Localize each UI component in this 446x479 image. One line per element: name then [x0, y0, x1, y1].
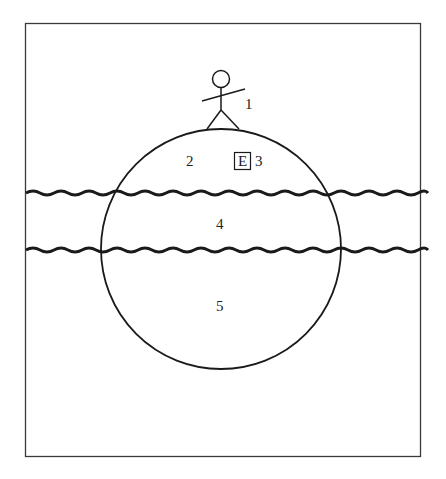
- frame-border: [26, 24, 421, 457]
- label-region-2: 2: [186, 153, 194, 169]
- wavy-line-bottom: [26, 248, 428, 252]
- wavy-line-top: [26, 191, 428, 195]
- stick-figure-icon: [202, 71, 245, 130]
- diagram-canvas: E 1 2 3 4 5: [0, 0, 446, 479]
- label-region-4: 4: [216, 216, 224, 232]
- label-region-5: 5: [216, 298, 224, 314]
- label-figure: 1: [245, 96, 253, 112]
- box-e-label: E: [238, 153, 247, 169]
- label-region-3: 3: [255, 153, 263, 169]
